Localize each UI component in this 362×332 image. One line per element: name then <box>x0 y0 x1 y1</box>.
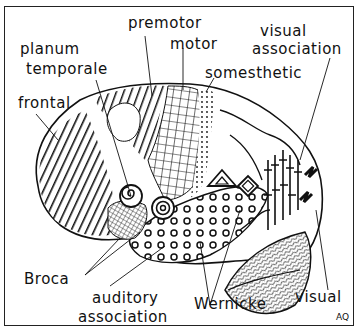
label-visual: visual <box>295 290 342 305</box>
label-association: association <box>78 310 168 325</box>
label-broca: Broca <box>24 272 69 287</box>
label-somesthetic: somesthetic <box>205 66 302 81</box>
artist-signature: AQ <box>336 312 349 322</box>
label-frontal: frontal <box>18 96 71 111</box>
label-planum: planum <box>20 42 80 57</box>
label-premotor: premotor <box>128 16 202 31</box>
label-auditory: auditory <box>92 291 159 306</box>
label-temporale: temporale <box>26 62 108 77</box>
label-motor: motor <box>170 37 218 52</box>
label-wernicke: Wernicke <box>194 297 266 312</box>
label-visual-association-1: visual <box>260 24 307 39</box>
label-visual-association-2: association <box>252 42 342 57</box>
